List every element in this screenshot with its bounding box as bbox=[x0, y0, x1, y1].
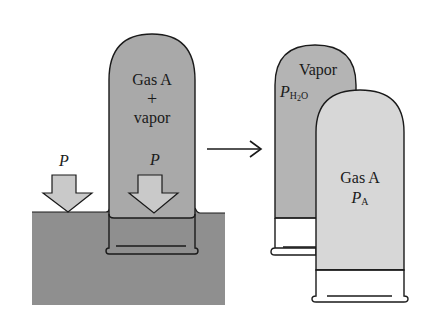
transition-arrow-icon bbox=[207, 141, 261, 157]
pressure-arrow-outside-icon bbox=[43, 175, 92, 212]
vapor-tube-label: Vapor bbox=[278, 62, 358, 78]
mixed-tube-label-gas-a: Gas A bbox=[109, 72, 195, 88]
vapor-pressure-label: PH2O bbox=[280, 84, 340, 103]
vapor-tube-empty-base bbox=[271, 218, 316, 255]
gasA-tube-label: Gas A bbox=[316, 170, 404, 186]
diagram-gas-collection-over-water: Gas A + vapor P P Vapor PH2O Gas A PA bbox=[0, 0, 432, 326]
inside-pressure-label: P bbox=[145, 152, 165, 168]
water-basin bbox=[32, 208, 225, 305]
outside-pressure-label: P bbox=[54, 153, 74, 169]
mixed-tube-label-plus: + bbox=[109, 90, 195, 108]
mixed-tube-label-vapor: vapor bbox=[109, 110, 195, 126]
gasA-tube-empty-base bbox=[312, 270, 408, 302]
gasA-pressure-label: PA bbox=[316, 190, 404, 207]
